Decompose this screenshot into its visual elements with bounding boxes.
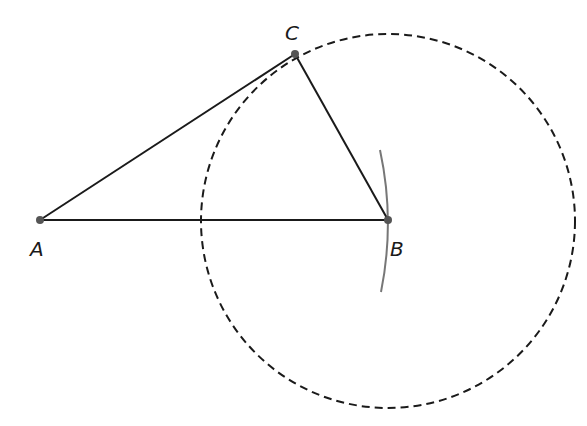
label-A: A [28, 237, 44, 261]
label-C: C [285, 21, 299, 45]
point-C [291, 50, 299, 58]
point-B [384, 216, 392, 224]
segment-BC [295, 54, 388, 220]
label-B: B [390, 237, 404, 261]
segment-AC [40, 54, 295, 220]
point-A [36, 216, 44, 224]
triangle-construction-diagram: A B C [0, 0, 587, 426]
